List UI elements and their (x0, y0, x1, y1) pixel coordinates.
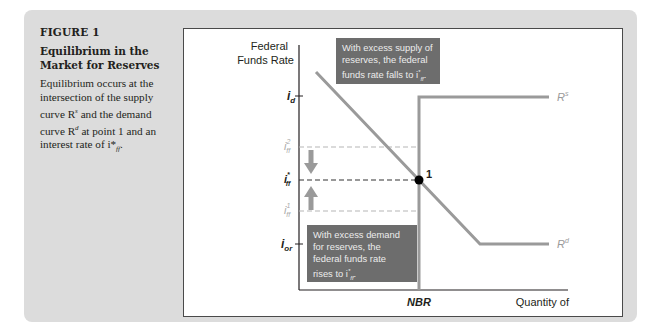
figure-description: Equilibrium occurs at the intersection o… (40, 76, 178, 157)
x-axis-title: Quantity of (516, 296, 570, 308)
supply-curve (419, 97, 549, 290)
x-axis-label-nbr: NBR (407, 296, 431, 308)
figure-number: FIGURE 1 (40, 26, 178, 38)
arrow-down-icon (304, 150, 318, 174)
point-label: 1 (426, 168, 432, 180)
label-i-ff1: i1ff (284, 202, 291, 218)
figure-caption: FIGURE 1 Equilibrium in the Market for R… (40, 26, 178, 157)
y-axis-title-line2: Funds Rate (237, 54, 294, 66)
excess-supply-note: With excess supply of reserves, the fede… (336, 38, 440, 84)
excess-demand-note: With excess demand for reserves, the fed… (307, 225, 417, 282)
label-i-or: ior (281, 237, 293, 253)
y-axis-title-line1: Federal (251, 40, 288, 52)
equilibrium-point (415, 176, 424, 185)
demand-curve-label: Rd (557, 237, 570, 250)
label-i-ff2: i2ff (284, 138, 291, 154)
label-i-d: id (287, 89, 296, 105)
label-i-ffstar: i*ff (284, 171, 291, 187)
arrow-up-icon (304, 186, 318, 210)
figure-title: Equilibrium in the Market for Reserves (40, 44, 178, 72)
supply-curve-label: Rs (557, 90, 569, 103)
